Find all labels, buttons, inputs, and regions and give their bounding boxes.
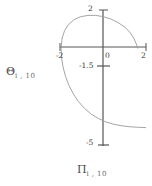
x-axis-title: Πi , 10 [77,164,107,178]
data-curve-upper-arc [61,15,138,48]
x-axis-title-symbol: Π [77,163,87,176]
y-tick-label-neg5: -5 [86,139,93,147]
x-axis-title-subscript: i , 10 [87,170,107,178]
x-tick-label-0: 0 [105,52,110,60]
y-axis-title-symbol: Θ [6,65,15,78]
x-tick-label-2: 2 [141,52,146,60]
y-tick-label-neg1p5: -1.5 [79,62,93,70]
y-axis-title: Θi , 10 [6,66,35,80]
y-axis-title-subscript: i , 10 [15,72,35,80]
x-tick-label-neg2: -2 [56,52,63,60]
plot-canvas [0,0,152,186]
y-tick-label-2: 2 [88,5,93,13]
plot-container: 2 -1.5 -5 -2 0 2 Θi , 10 Πi , 10 [0,0,152,186]
